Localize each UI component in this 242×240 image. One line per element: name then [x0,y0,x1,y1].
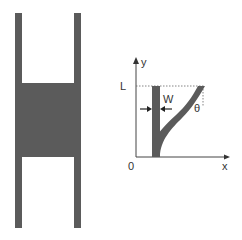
diagram-canvas: y x 0 L W θ [0,0,242,240]
width-label: W [163,93,174,105]
angle-label: θ [194,102,200,114]
y-axis-label: y [141,56,147,68]
beam-diagram: y x 0 L W θ [120,56,230,172]
origin-label: 0 [128,160,134,172]
x-axis-label: x [222,160,228,172]
h-structure [15,13,81,228]
arrow-right-icon [147,106,152,112]
length-label: L [120,80,126,92]
arrow-left-icon [160,106,165,112]
x-axis-arrow-icon [224,155,230,160]
y-axis-arrow-icon [133,57,139,64]
h-center-block [15,83,81,157]
